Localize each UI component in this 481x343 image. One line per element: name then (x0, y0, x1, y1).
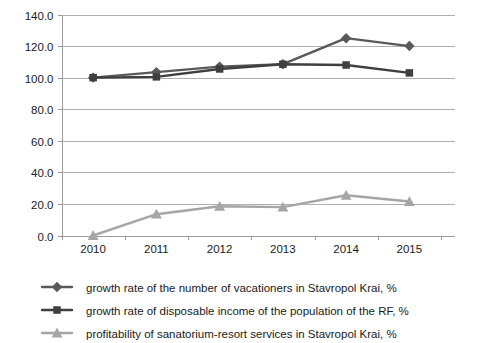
legend-entry: profitability of sanatorium-resort servi… (42, 328, 397, 340)
y-axis-tick-label: 80.0 (31, 104, 53, 116)
x-axis-tick-label: 2010 (80, 243, 106, 255)
data-point-marker (153, 73, 161, 81)
y-axis-tick-labels: 0.020.040.060.080.0100.0120.0140.0 (25, 10, 54, 243)
data-point-marker (279, 60, 287, 68)
y-axis-tick-label: 120.0 (25, 41, 54, 53)
x-axis-tick-label: 2013 (270, 243, 296, 255)
series-line (93, 64, 409, 77)
data-point-marker (342, 61, 350, 68)
legend-label: growth rate of the number of vacationers… (86, 282, 397, 294)
data-series (88, 33, 415, 83)
legend-label: growth rate of disposable income of the … (86, 305, 409, 317)
legend-label: profitability of sanatorium-resort servi… (86, 328, 397, 340)
x-axis-tick-label: 2011 (144, 243, 169, 255)
y-axis-tick-label: 140.0 (25, 10, 54, 22)
chart-canvas: 0.020.040.060.080.0100.0120.0140.0 20102… (0, 0, 481, 343)
legend-marker-icon (52, 282, 62, 292)
legend-entry: growth rate of the number of vacationers… (42, 282, 397, 294)
data-point-marker (404, 41, 414, 51)
series-line (93, 38, 409, 77)
x-axis-tick-label: 2015 (397, 243, 423, 255)
y-axis-tick-label: 20.0 (31, 199, 53, 211)
data-point-marker (406, 69, 414, 77)
legend-entry: growth rate of disposable income of the … (42, 305, 409, 317)
gridlines-group (58, 16, 456, 237)
data-series (88, 190, 415, 240)
legend-marker-icon (53, 306, 61, 314)
series-line (93, 195, 409, 235)
data-series-group (88, 33, 415, 240)
line-chart: 0.020.040.060.080.0100.0120.0140.0 20102… (0, 0, 481, 343)
y-axis-tick-label: 100.0 (25, 73, 54, 85)
x-axis-tick-label: 2014 (333, 243, 359, 255)
y-axis-tick-label: 0.0 (38, 231, 54, 243)
x-axis-tick-labels: 201020112012201320142015 (80, 243, 422, 255)
y-axis-tick-label: 40.0 (31, 167, 53, 179)
data-point-marker (89, 74, 97, 82)
data-point-marker (341, 33, 351, 43)
y-axis-tick-label: 60.0 (31, 136, 53, 148)
data-point-marker (216, 65, 224, 73)
x-axis-tick-label: 2012 (207, 243, 233, 255)
chart-legend: growth rate of the number of vacationers… (42, 282, 409, 340)
